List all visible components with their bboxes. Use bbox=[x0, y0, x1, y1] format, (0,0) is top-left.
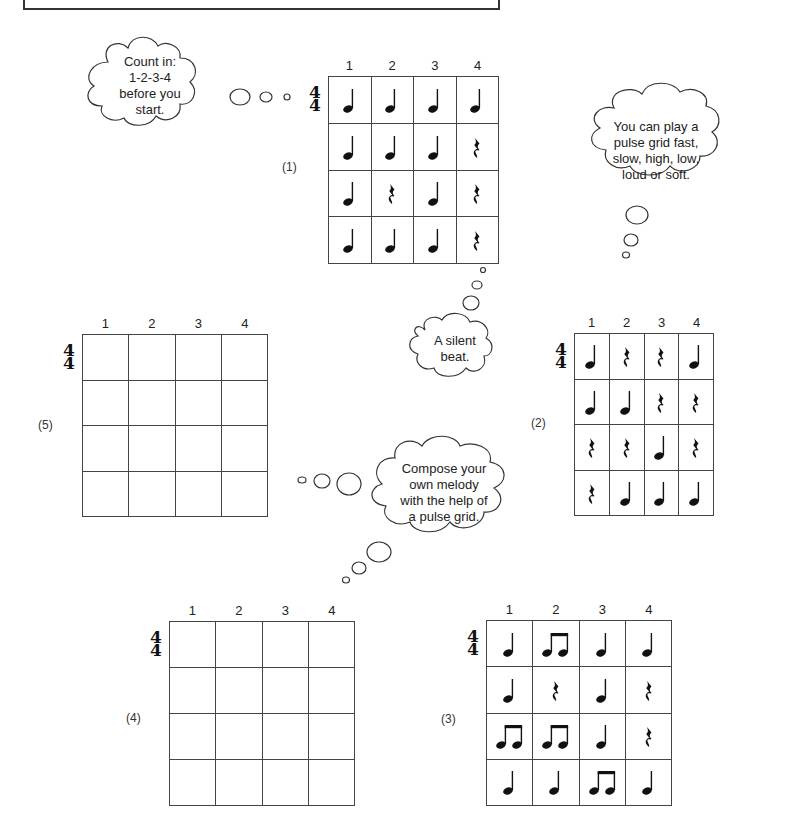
grid-cell-empty[interactable] bbox=[262, 760, 308, 806]
grid-cell bbox=[626, 759, 672, 805]
grid-cell bbox=[533, 667, 579, 713]
column-number: 3 bbox=[175, 316, 222, 331]
quarter-note-icon bbox=[688, 481, 704, 511]
grid-cell-empty[interactable] bbox=[170, 622, 216, 668]
quarter-note-icon bbox=[502, 678, 518, 708]
column-number: 1 bbox=[169, 603, 216, 618]
grid-label: (4) bbox=[126, 711, 141, 725]
quarter-rest-icon bbox=[656, 346, 666, 372]
grid-cell-empty[interactable] bbox=[221, 380, 267, 426]
quarter-rest-icon bbox=[656, 392, 666, 418]
grid-cell-empty[interactable] bbox=[83, 380, 129, 426]
grid-cell bbox=[575, 334, 610, 380]
column-number: 1 bbox=[574, 315, 609, 330]
grid-cell-empty[interactable] bbox=[175, 335, 221, 381]
grid-cell bbox=[414, 77, 457, 124]
grid-cell-empty[interactable] bbox=[216, 714, 262, 760]
grid-cell-empty[interactable] bbox=[262, 622, 308, 668]
time-signature: 44 bbox=[149, 631, 163, 657]
column-number: 3 bbox=[414, 58, 457, 73]
grid-cell-empty[interactable] bbox=[216, 622, 262, 668]
grid-cell bbox=[679, 334, 714, 380]
grid-cell-empty[interactable] bbox=[216, 760, 262, 806]
quarter-note-icon bbox=[688, 344, 704, 374]
thought-bubbles-2 bbox=[623, 206, 649, 258]
grid-row bbox=[487, 667, 672, 713]
grid-cell-empty[interactable] bbox=[170, 760, 216, 806]
grid-cell-empty[interactable] bbox=[308, 622, 354, 668]
grid-cell bbox=[679, 470, 714, 516]
grid-cell-empty[interactable] bbox=[83, 335, 129, 381]
grid-cell-empty[interactable] bbox=[170, 714, 216, 760]
grid-cell-empty[interactable] bbox=[129, 380, 175, 426]
grid-cell-empty[interactable] bbox=[170, 668, 216, 714]
grid-cell bbox=[579, 621, 625, 667]
eighth-notes-icon bbox=[588, 770, 618, 800]
grid-cell-empty[interactable] bbox=[221, 335, 267, 381]
quarter-rest-icon bbox=[387, 183, 397, 209]
column-number: 1 bbox=[486, 602, 533, 617]
quarter-rest-icon bbox=[644, 680, 654, 706]
quarter-note-icon bbox=[384, 88, 400, 118]
pulse-grid-table bbox=[169, 621, 355, 806]
column-number: 4 bbox=[309, 603, 356, 618]
quarter-note-icon bbox=[595, 678, 611, 708]
grid-cell-empty[interactable] bbox=[221, 426, 267, 472]
grid-label: (1) bbox=[282, 160, 297, 174]
grid-row bbox=[170, 714, 355, 760]
grid-cell-empty[interactable] bbox=[175, 471, 221, 517]
grid-cell bbox=[329, 77, 372, 124]
grid-cell-empty[interactable] bbox=[129, 426, 175, 472]
quarter-note-icon bbox=[384, 135, 400, 165]
quarter-note-icon bbox=[595, 632, 611, 662]
quarter-note-icon bbox=[427, 135, 443, 165]
grid-cell bbox=[329, 217, 372, 264]
grid-cell-empty[interactable] bbox=[83, 426, 129, 472]
grid-cell bbox=[414, 123, 457, 170]
pulse-grid-table bbox=[486, 620, 672, 806]
grid-row bbox=[329, 217, 499, 264]
grid-cell-empty[interactable] bbox=[83, 471, 129, 517]
cloud-text-pulse-grid-tip: You can play a pulse grid fast, slow, hi… bbox=[596, 119, 716, 183]
cloud-line: loud or soft. bbox=[596, 167, 716, 183]
cloud-line: a pulse grid. bbox=[384, 509, 504, 525]
grid-row bbox=[575, 379, 714, 425]
grid-cell bbox=[414, 170, 457, 217]
grid-cell-empty[interactable] bbox=[221, 471, 267, 517]
grid-row bbox=[487, 621, 672, 667]
quarter-note-icon bbox=[548, 770, 564, 800]
grid-cell-empty[interactable] bbox=[262, 668, 308, 714]
grid-cell-empty[interactable] bbox=[262, 714, 308, 760]
pulse-grid-table bbox=[328, 76, 499, 264]
quarter-note-icon bbox=[502, 632, 518, 662]
grid-cell bbox=[644, 470, 679, 516]
quarter-note-icon bbox=[427, 88, 443, 118]
grid-cell-empty[interactable] bbox=[129, 471, 175, 517]
pulse-grid-table bbox=[82, 334, 268, 517]
grid-cell bbox=[533, 759, 579, 805]
quarter-note-icon bbox=[469, 88, 485, 118]
cloud-line: 1-2-3-4 bbox=[100, 70, 200, 86]
cloud-text-count-in: Count in: 1-2-3-4 before you start. bbox=[100, 54, 200, 118]
quarter-note-icon bbox=[641, 632, 657, 662]
quarter-rest-icon bbox=[587, 437, 597, 463]
quarter-rest-icon bbox=[472, 183, 482, 209]
grid-cell-empty[interactable] bbox=[175, 380, 221, 426]
grid-cell-empty[interactable] bbox=[308, 714, 354, 760]
grid-cell-empty[interactable] bbox=[308, 668, 354, 714]
grid-cell-empty[interactable] bbox=[216, 668, 262, 714]
grid-cell-empty[interactable] bbox=[175, 426, 221, 472]
quarter-note-icon bbox=[584, 344, 600, 374]
grid-cell bbox=[644, 379, 679, 425]
cloud-line: with the help of bbox=[384, 493, 504, 509]
grid-cell bbox=[579, 667, 625, 713]
grid-cell-empty[interactable] bbox=[129, 335, 175, 381]
time-signature-bottom: 4 bbox=[149, 644, 163, 657]
grid-row bbox=[170, 760, 355, 806]
column-number: 2 bbox=[533, 602, 580, 617]
quarter-note-icon bbox=[619, 390, 635, 420]
time-signature: 44 bbox=[308, 86, 322, 112]
grid-cell-empty[interactable] bbox=[308, 760, 354, 806]
quarter-note-icon bbox=[342, 228, 358, 258]
grid-cell bbox=[329, 123, 372, 170]
